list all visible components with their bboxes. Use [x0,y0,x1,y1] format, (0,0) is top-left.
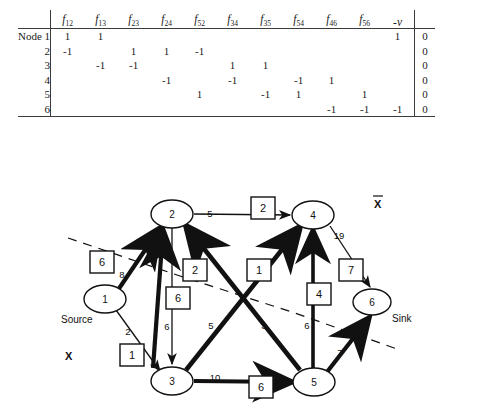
simplex-tableau: f12 f13 f23 f24 f52 f34 f35 [18,10,466,130]
set-label-x-bar: X [373,196,383,210]
node-label: 3 [169,376,175,387]
cell-r5c4 [150,87,183,102]
cell-r3c5 [183,58,216,73]
cell-r2c10 [348,44,381,59]
cell-r3c3: -1 [117,58,150,73]
network-flow-diagram: 6 1 2 2 6 1 4 7 6 8 2 5 6 5 3 6 19 7 10 [0,160,484,413]
cell-r2c9 [315,44,348,59]
cell-r1c3 [117,29,150,44]
cell-r6c9: -1 [315,102,348,117]
col-header-f34: f34 [216,10,249,29]
flow-box-3-5: 6 [249,376,273,398]
cell-r1c7 [249,29,282,44]
cell-r6c11: -1 [381,102,415,117]
cell-r5c7: -1 [249,87,282,102]
col-header-f54: f54 [282,10,315,29]
cell-r1c1: 1 [51,29,85,44]
flow-box-label: 7 [348,264,354,276]
row-label-1: Node 1 [18,29,51,44]
cell-r2c2 [84,44,117,59]
cell-r3c11 [381,58,415,73]
edge-3-5 [194,381,292,382]
cell-r4c5 [183,73,216,88]
row-label-3: 3 [18,58,51,73]
row-label-2: 2 [18,44,51,59]
cell-r4c11 [381,73,415,88]
cell-r3c6: 1 [216,58,249,73]
source-label: Source [61,314,93,325]
cell-r1c8 [282,29,315,44]
flow-box-label: 4 [316,288,322,300]
cell-r2c7 [249,44,282,59]
node-1[interactable]: 1 [84,285,126,313]
cell-r2c4: 1 [150,44,183,59]
col-header-f13: f13 [84,10,117,29]
capacity-label-5-4: 6 [304,320,309,331]
cell-r4c7 [249,73,282,88]
col-header-rhs [415,10,436,29]
cell-r5-rhs: 0 [415,87,436,102]
cell-r4c3 [117,73,150,88]
edge-1-2 [118,228,160,290]
cell-r6c6 [216,102,249,117]
cell-r4c2 [84,73,117,88]
table-row: 5 1 -1 1 1 0 [18,87,435,102]
col-header-f24: f24 [150,10,183,29]
cell-r5c5: 1 [183,87,216,102]
cell-r2c3: 1 [117,44,150,59]
tableau-header: f12 f13 f23 f24 f52 f34 f35 [18,10,435,29]
flow-box-2-4: 2 [251,197,275,219]
cell-r3c8 [282,58,315,73]
set-label-xbar-text: X [374,198,382,210]
cell-r1-rhs: 0 [415,29,436,44]
flow-box-3-2: 2 [183,259,207,281]
table-row: Node 1 1 1 1 0 [18,29,435,44]
cell-r1c6 [216,29,249,44]
cell-r2-rhs: 0 [415,44,436,59]
cell-r6c1 [51,102,85,117]
cell-r5c9 [315,87,348,102]
col-header-f12: f12 [51,10,85,29]
table-row: 2 -1 1 1 -1 0 [18,44,435,59]
cell-r6c5 [183,102,216,117]
cell-r4c9: 1 [315,73,348,88]
cell-r4c10 [348,73,381,88]
node-2[interactable]: 2 [151,200,193,228]
capacity-label-1-3: 2 [125,326,130,337]
node-4[interactable]: 4 [292,201,334,229]
col-header-neg-v: -v [381,10,415,29]
cell-r5c10: 1 [348,87,381,102]
cell-r3-rhs: 0 [415,58,436,73]
col-header-f35: f35 [249,10,282,29]
sink-label: Sink [392,313,412,324]
node-3[interactable]: 3 [151,367,193,395]
cell-r3c2: -1 [84,58,117,73]
cell-r6c4 [150,102,183,117]
capacity-label-3-4: 5 [208,320,213,331]
table-row: 6 -1 -1 -1 0 [18,102,435,117]
node-5[interactable]: 5 [293,368,335,396]
flow-box-3-4: 1 [247,259,271,281]
table-row: 4 -1 -1 -1 1 0 [18,73,435,88]
cell-r6c3 [117,102,150,117]
row-label-4: 4 [18,73,51,88]
tableau-table: f12 f13 f23 f24 f52 f34 f35 [18,10,435,117]
cell-r3c9 [315,58,348,73]
flow-box-label: 1 [256,264,262,276]
cell-r6c2 [84,102,117,117]
tableau-body: Node 1 1 1 1 0 2 -1 1 1 -1 [18,29,435,117]
node-6[interactable]: 6 [353,289,391,315]
cell-r5c8: 1 [282,87,315,102]
cell-r4c1 [51,73,85,88]
cell-r1c10 [348,29,381,44]
cell-r5c2 [84,87,117,102]
cell-r3c7: 1 [249,58,282,73]
capacity-label-4-6: 19 [334,230,345,241]
row-label-6: 6 [18,102,51,117]
flow-box-label: 2 [260,202,266,214]
cell-r6c10: -1 [348,102,381,117]
capacity-label-2-4: 5 [207,208,212,219]
node-label: 6 [369,297,375,308]
cell-r4c4: -1 [150,73,183,88]
cell-r3c10 [348,58,381,73]
